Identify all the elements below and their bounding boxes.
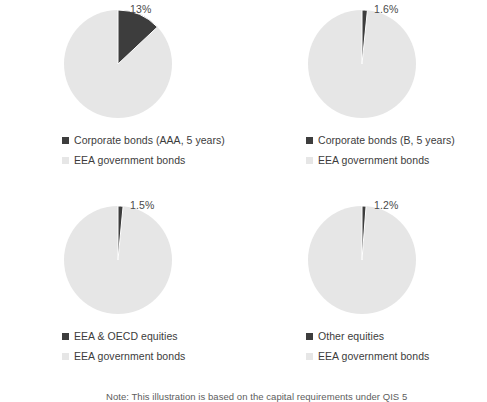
legend-label: Corporate bonds (AAA, 5 years) (74, 134, 225, 146)
legend-swatch-dark (306, 137, 313, 144)
pie-data-label-2: 1.6% (374, 3, 398, 15)
pie-panel-other-equities: 1.2% Other equities EEA government bonds (244, 196, 487, 392)
pie-data-label-3: 1.5% (130, 199, 154, 211)
pie-chart-figure: 13% Corporate bonds (AAA, 5 years) EEA g… (0, 0, 487, 402)
legend-item: Other equities (244, 326, 487, 346)
legend-label: EEA government bonds (318, 350, 429, 362)
legend-swatch-light (62, 157, 69, 164)
legend-swatch-light (306, 157, 313, 164)
legend-item: Corporate bonds (AAA, 5 years) (0, 130, 243, 150)
pie-chart-1 (62, 8, 174, 120)
pie-svg-2 (306, 8, 418, 120)
legend-4: Other equities EEA government bonds (244, 326, 487, 366)
pie-chart-4 (306, 204, 418, 316)
legend-item: EEA government bonds (0, 346, 243, 366)
legend-label: EEA government bonds (74, 154, 185, 166)
pie-data-label-4: 1.2% (374, 199, 398, 211)
legend-swatch-light (306, 353, 313, 360)
pie-svg-3 (62, 204, 174, 316)
legend-item: Corporate bonds (B, 5 years) (244, 130, 487, 150)
pie-panel-corporate-bonds-b: 1.6% Corporate bonds (B, 5 years) EEA go… (244, 0, 487, 196)
legend-1: Corporate bonds (AAA, 5 years) EEA gover… (0, 130, 243, 170)
pie-svg-4 (306, 204, 418, 316)
legend-label: EEA government bonds (318, 154, 429, 166)
pie-chart-2 (306, 8, 418, 120)
pie-data-label-1: 13% (130, 3, 151, 15)
pie-panel-corporate-bonds-aaa: 13% Corporate bonds (AAA, 5 years) EEA g… (0, 0, 243, 196)
legend-item: EEA government bonds (244, 346, 487, 366)
legend-swatch-dark (62, 137, 69, 144)
legend-swatch-light (62, 353, 69, 360)
legend-label: EEA government bonds (74, 350, 185, 362)
legend-item: EEA government bonds (244, 150, 487, 170)
legend-label: Other equities (318, 330, 384, 342)
legend-swatch-dark (306, 333, 313, 340)
footnote-note: Note: This illustration is based on the … (106, 391, 446, 402)
pie-panel-eea-oecd-equities: 1.5% EEA & OECD equities EEA government … (0, 196, 243, 392)
legend-label: EEA & OECD equities (74, 330, 178, 342)
pie-svg-1 (62, 8, 174, 120)
legend-swatch-dark (62, 333, 69, 340)
legend-item: EEA government bonds (0, 150, 243, 170)
legend-label: Corporate bonds (B, 5 years) (318, 134, 455, 146)
legend-3: EEA & OECD equities EEA government bonds (0, 326, 243, 366)
pie-chart-3 (62, 204, 174, 316)
legend-item: EEA & OECD equities (0, 326, 243, 346)
legend-2: Corporate bonds (B, 5 years) EEA governm… (244, 130, 487, 170)
